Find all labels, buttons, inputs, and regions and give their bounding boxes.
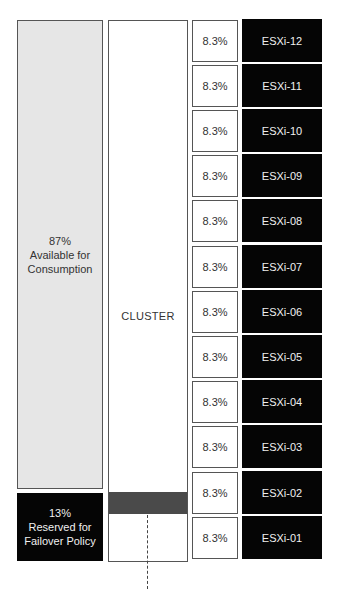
host-esxi-09: ESXi-09 [242,154,322,197]
host-share-cell: 8.3% [192,381,238,423]
host-esxi-05: ESXi-05 [242,335,322,378]
host-esxi-02: ESXi-02 [242,471,322,514]
host-esxi-10: ESXi-10 [242,109,322,152]
host-share-cell: 8.3% [192,426,238,468]
host-share-cell: 8.3% [192,517,238,559]
host-esxi-07: ESXi-07 [242,245,322,288]
reserved-label-line2: Failover Policy [24,534,96,548]
host-esxi-12: ESXi-12 [242,19,322,62]
host-esxi-04: ESXi-04 [242,380,322,423]
host-share-cell: 8.3% [192,336,238,378]
available-percent: 87% [28,234,93,248]
available-capacity-block: 87% Available for Consumption [17,20,103,489]
host-esxi-08: ESXi-08 [242,199,322,242]
host-share-cell: 8.3% [192,65,238,107]
host-esxi-06: ESXi-06 [242,290,322,333]
host-esxi-01: ESXi-01 [242,516,322,559]
host-share-cell: 8.3% [192,20,238,62]
host-share-cell: 8.3% [192,291,238,333]
reserved-label-line1: Reserved for [24,520,96,534]
host-esxi-03: ESXi-03 [242,425,322,468]
reserved-percent: 13% [24,506,96,520]
available-label-line2: Consumption [28,262,93,276]
host-share-cell: 8.3% [192,110,238,152]
cluster-failover-bar [109,492,187,514]
failover-reserved-block: 13% Reserved for Failover Policy [17,493,103,561]
cluster-label: CLUSTER [108,310,188,322]
host-share-cell: 8.3% [192,246,238,288]
host-share-cell: 8.3% [192,155,238,197]
cluster-block [108,20,188,562]
host-esxi-11: ESXi-11 [242,64,322,107]
failover-dashed-line [147,515,148,589]
available-label-line1: Available for [28,248,93,262]
host-share-cell: 8.3% [192,200,238,242]
host-share-cell: 8.3% [192,472,238,514]
